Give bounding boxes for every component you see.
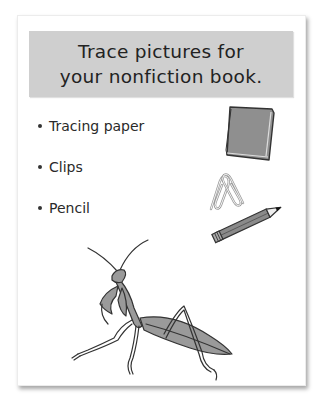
material-label: Pencil	[49, 200, 90, 216]
list-item: Clips	[38, 155, 144, 196]
title-banner: Trace pictures for your nonfiction book.	[29, 31, 293, 97]
material-label: Tracing paper	[49, 118, 144, 134]
materials-list: Tracing paper Clips Pencil	[38, 114, 144, 237]
material-label: Clips	[49, 159, 83, 175]
list-item: Pencil	[38, 196, 144, 237]
instruction-card: Trace pictures for your nonfiction book.…	[17, 15, 306, 386]
bullet-icon	[38, 124, 42, 128]
praying-mantis-illustration	[64, 234, 254, 384]
tracing-paper-icon	[222, 103, 278, 163]
title-line-1: Trace pictures for	[78, 39, 244, 64]
title-line-2: your nonfiction book.	[60, 64, 263, 89]
list-item: Tracing paper	[38, 114, 144, 155]
bullet-icon	[38, 165, 42, 169]
bullet-icon	[38, 206, 42, 210]
